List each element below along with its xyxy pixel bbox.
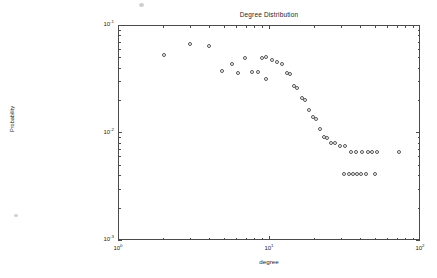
x-axis-tick [413,25,414,28]
x-axis-tick [163,25,164,28]
x-axis-tick [341,238,342,241]
x-axis-tick [224,238,225,241]
x-axis-tick [405,25,406,28]
x-axis-tick [397,25,398,28]
x-axis-tick-label-2: 102 [405,245,435,251]
y-axis-tick [418,137,421,138]
y-axis-tick [418,68,421,69]
x-axis-tick [118,236,119,240]
x-axis-tick [314,25,315,28]
y-axis-tick [118,57,121,58]
x-axis-tick [360,25,361,28]
y-axis-tick-label-1: 10-2 [82,129,114,135]
y-axis-tick [418,100,421,101]
x-axis-tick [209,238,210,241]
y-axis-tick [418,189,421,190]
x-axis-tick [254,25,255,28]
x-axis-tick [236,25,237,28]
y-axis-tick [118,68,121,69]
x-axis-tick-label-0: 100 [103,245,133,251]
y-axis-tick [118,208,121,209]
y-axis-tick [418,175,421,176]
y-axis-tick [418,42,421,43]
degree-distribution-figure: Degree Distribution 10-110-210-310010110… [0,0,437,278]
x-axis-tick [269,236,270,240]
y-axis-tick [418,57,421,58]
x-axis-tick [360,238,361,241]
y-axis-tick [118,137,121,138]
y-axis-tick [118,100,121,101]
x-axis-tick [397,238,398,241]
y-axis-tick [118,149,121,150]
y-axis-tick-label-2: 10-3 [82,236,114,242]
y-axis-tick [118,143,121,144]
y-axis-tick [118,49,121,50]
x-axis-tick [387,25,388,28]
y-axis-tick [118,42,121,43]
y-axis-tick [416,132,420,133]
x-axis-tick [262,238,263,241]
y-axis-tick [118,30,121,31]
y-axis-tick [416,240,420,241]
x-axis-tick [405,238,406,241]
x-axis-tick [224,25,225,28]
x-axis-title: degree [118,258,420,265]
y-axis-tick [418,49,421,50]
x-axis-tick [262,25,263,28]
x-axis-tick [314,238,315,241]
y-axis-tick [418,30,421,31]
y-axis-tick [118,35,121,36]
x-axis-tick [163,238,164,241]
x-axis-tick [190,25,191,28]
y-axis-tick [418,35,421,36]
y-axis-tick [118,165,121,166]
y-axis-tick [118,81,121,82]
plot-area [118,25,420,240]
page-title: Degree Distribution [118,11,420,18]
x-axis-tick-label-1: 101 [254,245,284,251]
x-axis-tick [387,238,388,241]
y-axis-tick [418,165,421,166]
y-axis-title: Probability [9,89,15,149]
x-axis-tick [190,238,191,241]
y-axis-tick [418,143,421,144]
x-axis-tick [254,238,255,241]
x-axis-tick [375,25,376,28]
x-axis-tick [341,25,342,28]
x-axis-tick [375,238,376,241]
y-axis-tick [418,149,421,150]
y-axis-tick [118,240,122,241]
y-axis-tick [118,132,122,133]
y-axis-tick-label-0: 10-1 [82,21,114,27]
scan-artifact [14,214,18,217]
x-axis-tick [269,25,270,29]
y-axis-tick [418,81,421,82]
x-axis-tick [118,25,119,29]
y-axis-tick [118,189,121,190]
y-axis-tick [118,156,121,157]
x-axis-tick [413,238,414,241]
y-axis-tick [118,175,121,176]
scan-artifact [139,3,144,7]
x-axis-tick [246,238,247,241]
x-axis-tick [236,238,237,241]
y-axis-tick [418,156,421,157]
x-axis-tick [246,25,247,28]
y-axis-tick [418,208,421,209]
x-axis-tick [209,25,210,28]
